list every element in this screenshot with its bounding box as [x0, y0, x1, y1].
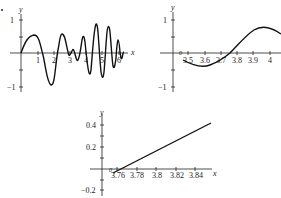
plot1-y-label: y — [18, 5, 23, 14]
plot1-curve — [21, 24, 124, 85]
plot3-ytick-0.4: 0.4 — [86, 121, 96, 130]
plot2-ytick-1: 1 — [163, 16, 167, 25]
plot1-xtick: 3 — [68, 56, 72, 65]
figure-marker — [1, 9, 3, 11]
plot2-origin-label: 0 — [179, 50, 182, 56]
plot1-ytick-1: 1 — [10, 16, 14, 25]
plot-3: y x 0 0.4 0.2 −0.2 3.76 3.78 3.8 3.82 3.… — [81, 108, 217, 196]
plot3-xtick: 3.82 — [170, 171, 184, 180]
plot3-x-label: x — [212, 169, 217, 178]
plot-1: y x 1 −1 1 2 3 4 5 6 — [7, 5, 135, 92]
plot2-xtick: 3.6 — [200, 56, 210, 65]
plot1-xtick: 1 — [36, 56, 40, 65]
plot1-ytick-m1: −1 — [7, 83, 16, 92]
plot2-y-label: y — [170, 3, 175, 12]
plot3-xtick: 3.84 — [189, 171, 203, 180]
plot2-ytick-m1: −1 — [158, 83, 167, 92]
plot3-ytick-0.2: 0.2 — [86, 143, 96, 152]
plot2-xtick: 4 — [268, 56, 272, 65]
figure: y x 1 −1 1 2 3 4 5 6 y 0 1 −1 3.5 3.6 3.… — [0, 0, 281, 198]
plot-2: y 0 1 −1 3.5 3.6 3.7 3.8 3.9 4 — [158, 3, 281, 92]
plot1-x-label: x — [130, 48, 135, 57]
plot3-y-label: y — [99, 108, 104, 117]
plot3-xtick: 3.8 — [152, 171, 162, 180]
plot3-ytick-m0.2: −0.2 — [81, 186, 96, 195]
plot3-line — [113, 123, 211, 173]
plot2-xtick: 3.8 — [232, 56, 242, 65]
plot2-xtick: 3.9 — [248, 56, 258, 65]
plot3-xtick: 3.78 — [130, 171, 144, 180]
